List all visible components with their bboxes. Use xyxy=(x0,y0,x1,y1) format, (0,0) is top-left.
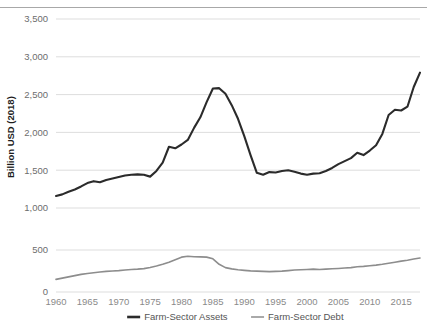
x-tick-label: 1970 xyxy=(108,296,129,307)
x-tick-label: 1975 xyxy=(140,296,161,307)
y-tick-label: 2,500 xyxy=(24,89,48,100)
x-tick-label: 1960 xyxy=(45,296,66,307)
x-tick-label: 1990 xyxy=(234,296,255,307)
series-line-1 xyxy=(56,73,420,196)
y-tick-label: 3,500 xyxy=(24,13,48,24)
y-axis-title: Billion USD (2018) xyxy=(5,96,16,178)
x-tick-label: 1980 xyxy=(171,296,192,307)
legend-label-1[interactable]: Farm-Sector Assets xyxy=(144,311,228,322)
x-tick-label: 2005 xyxy=(328,296,349,307)
chart-canvas: 1,0001,5002,0002,5003,0003,5000500196019… xyxy=(0,0,427,331)
y-tick-label: 1,000 xyxy=(24,202,48,213)
series-line-2 xyxy=(56,256,420,279)
x-tick-label: 1995 xyxy=(265,296,286,307)
x-tick-label: 2000 xyxy=(296,296,317,307)
y-tick-label: 2,000 xyxy=(24,127,48,138)
y-tick-label: 500 xyxy=(32,244,48,255)
x-tick-label: 2015 xyxy=(391,296,412,307)
y-tick-label: 3,000 xyxy=(24,51,48,62)
y-tick-label: 1,500 xyxy=(24,165,48,176)
farm-sector-chart: 1,0001,5002,0002,5003,0003,5000500196019… xyxy=(0,0,427,331)
x-tick-label: 1985 xyxy=(202,296,223,307)
x-tick-label: 1965 xyxy=(77,296,98,307)
legend-label-2[interactable]: Farm-Sector Debt xyxy=(268,311,344,322)
x-tick-label: 2010 xyxy=(359,296,380,307)
